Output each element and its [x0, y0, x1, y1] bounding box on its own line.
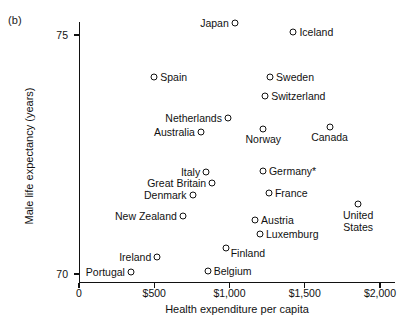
x-tick-label: 0: [76, 287, 82, 299]
data-point-marker: [209, 180, 216, 187]
data-point-marker: [326, 124, 333, 131]
data-point-marker: [151, 74, 158, 81]
y-tick-mark: [74, 273, 79, 274]
data-point-label: Canada: [311, 132, 348, 143]
y-tick-mark: [74, 34, 79, 35]
data-point-label: Portugal: [86, 267, 125, 278]
x-tick-label: $500: [143, 287, 166, 299]
data-point-label: Australia: [154, 127, 195, 138]
data-point-label: Japan: [200, 18, 229, 29]
data-point-marker: [231, 20, 238, 27]
data-point-marker: [189, 192, 196, 199]
data-point-label: Ireland: [119, 252, 151, 263]
data-point-marker: [154, 254, 161, 261]
data-point-marker: [127, 269, 134, 276]
data-point-marker: [290, 29, 297, 36]
x-tick-label: $1,500: [289, 287, 321, 299]
y-axis-title: Male life expectancy (years): [23, 56, 35, 256]
data-point-marker: [179, 212, 186, 219]
data-point-marker: [260, 126, 267, 133]
data-point-marker: [222, 244, 229, 251]
data-point-label: Denmark: [144, 190, 187, 201]
x-tick-label: $1,000: [213, 287, 245, 299]
data-point-label: Switzerland: [271, 91, 325, 102]
data-point-label: Belgium: [214, 265, 252, 276]
data-point-label: Germany*: [269, 166, 316, 177]
data-point-label: Finland: [231, 247, 265, 258]
data-point-label: Austria: [261, 214, 294, 225]
data-point-label: Great Britain: [147, 178, 206, 189]
y-tick-label: 70: [0, 268, 68, 280]
data-point-label: Norway: [246, 134, 282, 145]
x-axis-title: Health expenditure per capita: [79, 303, 395, 315]
data-point-label: Sweden: [276, 72, 314, 83]
data-point-label: New Zealand: [115, 210, 177, 221]
y-axis-line: [79, 22, 80, 283]
data-point-label: Spain: [160, 72, 187, 83]
data-point-marker: [203, 169, 210, 176]
data-point-label: UnitedStates: [343, 209, 373, 233]
data-point-marker: [267, 74, 274, 81]
x-axis-line: [79, 282, 395, 283]
data-point-marker: [262, 93, 269, 100]
x-tick-label: $2,000: [364, 287, 396, 299]
panel-label: (b): [8, 14, 22, 26]
y-tick-label: 75: [0, 29, 68, 41]
data-point-marker: [204, 267, 211, 274]
data-point-marker: [197, 129, 204, 136]
data-point-label: Iceland: [299, 27, 333, 38]
data-point-marker: [257, 231, 264, 238]
data-point-label: France: [275, 187, 308, 198]
data-point-marker: [259, 168, 266, 175]
data-point-marker: [252, 216, 259, 223]
data-point-label: Luxemburg: [266, 229, 319, 240]
data-point-label: Netherlands: [165, 113, 222, 124]
data-point-marker: [265, 189, 272, 196]
data-point-marker: [355, 200, 362, 207]
scatter-plot-figure: (b) 0$500$1,000$1,500$2,000 7075 JapanIc…: [0, 0, 411, 321]
data-point-marker: [224, 115, 231, 122]
